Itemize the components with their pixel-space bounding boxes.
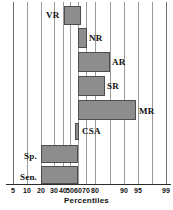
bar-csa bbox=[75, 123, 79, 140]
x-axis-line bbox=[6, 184, 171, 185]
gridline bbox=[166, 2, 167, 185]
gridline bbox=[138, 2, 139, 185]
gridline bbox=[13, 2, 14, 185]
bar-vr bbox=[64, 6, 81, 25]
bar-label-vr: VR bbox=[46, 10, 59, 20]
x-tick-10: 10 bbox=[23, 186, 31, 195]
bar-sr bbox=[78, 76, 105, 96]
bar-label-sen: Sen. bbox=[20, 172, 37, 182]
bar-label-ar: AR bbox=[112, 57, 125, 67]
x-tick-70: 70 bbox=[82, 186, 90, 195]
bar-label-nr: NR bbox=[89, 33, 102, 43]
x-tick-90: 90 bbox=[120, 186, 128, 195]
bar-sp bbox=[41, 145, 78, 163]
bar-label-sr: SR bbox=[107, 81, 119, 91]
plot-area: VRNRARSRMRCSASp.Sen. bbox=[0, 2, 173, 185]
x-axis-title: Percentiles bbox=[0, 196, 173, 205]
bar-sen bbox=[41, 166, 78, 184]
bar-label-csa: CSA bbox=[82, 126, 101, 136]
x-tick-30: 30 bbox=[50, 186, 58, 195]
bar-label-mr: MR bbox=[139, 106, 154, 116]
bar-nr bbox=[78, 28, 87, 48]
x-tick-50: 50 bbox=[66, 186, 74, 195]
bar-ar bbox=[78, 52, 110, 72]
gridline bbox=[110, 2, 111, 185]
x-tick-20: 20 bbox=[37, 186, 45, 195]
percentiles-bar-chart: VRNRARSRMRCSASp.Sen. 5102030405060708090… bbox=[0, 0, 173, 210]
x-tick-95: 95 bbox=[134, 186, 142, 195]
x-tick-5: 5 bbox=[11, 186, 15, 195]
bar-mr bbox=[78, 100, 136, 120]
x-tick-99: 99 bbox=[162, 186, 170, 195]
x-tick-60: 60 bbox=[74, 186, 82, 195]
gridline bbox=[124, 2, 125, 185]
gridline bbox=[152, 2, 153, 185]
x-tick-80: 80 bbox=[91, 186, 99, 195]
bar-label-sp: Sp. bbox=[24, 151, 37, 161]
